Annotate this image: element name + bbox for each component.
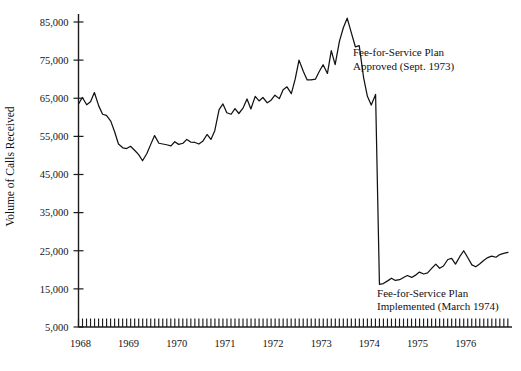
y-tick-label: 35,000 — [40, 207, 69, 218]
y-tick-label: 55,000 — [40, 131, 69, 142]
annotation-fee-for-service-approved-line1: Fee-for-Service Plan — [353, 46, 445, 58]
y-tick-label: 65,000 — [40, 93, 69, 104]
y-tick-label: 45,000 — [40, 169, 69, 180]
y-tick-label: 75,000 — [40, 55, 69, 66]
annotation-fee-for-service-implemented-line2: Implemented (March 1974) — [377, 300, 499, 313]
x-tick-label: 1968 — [70, 338, 91, 349]
line-chart: 5,00015,00025,00035,00045,00055,00065,00… — [0, 0, 521, 371]
x-tick-label: 1976 — [455, 338, 476, 349]
y-tick-label: 15,000 — [40, 284, 69, 295]
annotation-fee-for-service-approved-line2: Approved (Sept. 1973) — [353, 60, 454, 73]
chart-container: 5,00015,00025,00035,00045,00055,00065,00… — [0, 0, 521, 371]
x-tick-label: 1971 — [214, 338, 235, 349]
annotation-fee-for-service-implemented-line1: Fee-for-Service Plan — [377, 287, 469, 299]
x-tick-label: 1970 — [166, 338, 187, 349]
x-tick-label: 1975 — [407, 338, 428, 349]
y-axis-title: Volume of Calls Received — [4, 106, 16, 226]
y-tick-label: 5,000 — [45, 322, 69, 333]
y-tick-label: 25,000 — [40, 246, 69, 257]
y-tick-label: 85,000 — [40, 17, 69, 28]
x-tick-label: 1969 — [118, 338, 139, 349]
x-tick-label: 1972 — [263, 338, 284, 349]
x-tick-label: 1973 — [311, 338, 332, 349]
x-tick-label: 1974 — [359, 338, 381, 349]
